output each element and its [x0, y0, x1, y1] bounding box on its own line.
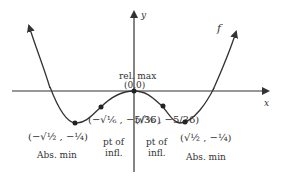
- abs-min-left-label: Abs. min: [37, 150, 77, 160]
- curve-left-tail: [29, 26, 50, 88]
- abs-min-right-label: Abs. min: [186, 152, 226, 162]
- point-abs-min-left: [73, 121, 78, 126]
- function-label: f: [217, 24, 221, 34]
- curve-right-tail: [213, 32, 236, 90]
- point-infl-right: [161, 104, 166, 109]
- infl-right-label-2: infl.: [148, 148, 166, 158]
- abs-min-left-coord: (−√½ , −¼): [28, 132, 88, 142]
- infl-left-label-1: pt of: [103, 137, 124, 147]
- infl-right-coord: (√⅙ , −5/36): [135, 115, 199, 125]
- infl-right-label-1: pt of: [146, 137, 167, 147]
- abs-min-right-coord: (√½ , −¼): [180, 133, 231, 143]
- x-axis-label: x: [264, 98, 269, 108]
- point-infl-left: [99, 105, 104, 110]
- infl-left-label-2: infl.: [105, 148, 123, 158]
- rel-max-coord: (0,0): [124, 80, 145, 90]
- y-axis-label: y: [141, 10, 146, 20]
